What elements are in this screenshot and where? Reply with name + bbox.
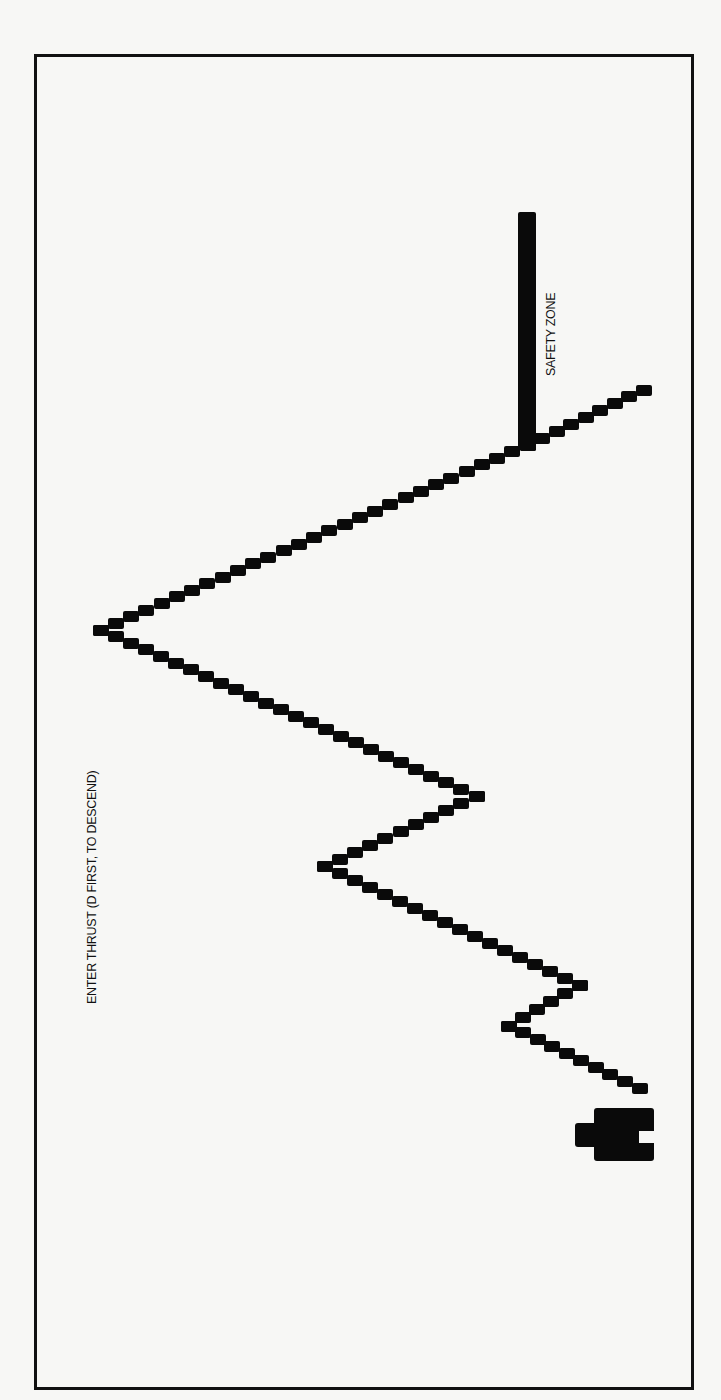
terrain-step: [443, 473, 459, 484]
terrain-step: [337, 519, 353, 530]
terrain-step: [398, 492, 414, 503]
terrain-step: [276, 545, 292, 556]
terrain-step: [459, 466, 475, 477]
terrain-step: [544, 1041, 560, 1052]
lander-notch: [639, 1131, 655, 1143]
terrain-step: [108, 631, 124, 642]
terrain-step: [138, 605, 154, 616]
terrain-step: [154, 598, 170, 609]
terrain-step: [321, 525, 337, 536]
safety-zone-label: SAFETY ZONE: [545, 293, 558, 376]
terrain-step: [592, 405, 608, 416]
terrain-step: [377, 889, 393, 900]
terrain-step: [138, 644, 154, 655]
terrain-step: [123, 611, 139, 622]
terrain-step: [199, 578, 215, 589]
terrain-step: [332, 854, 348, 865]
terrain-step: [352, 512, 368, 523]
terrain-step: [501, 1021, 517, 1032]
terrain-step: [632, 1083, 648, 1094]
terrain-step: [393, 826, 409, 837]
terrain-step: [347, 875, 363, 886]
terrain-step: [530, 1034, 546, 1045]
terrain-step: [617, 1076, 633, 1087]
terrain-step: [184, 585, 200, 596]
terrain-step: [317, 861, 333, 872]
terrain-step: [408, 764, 424, 775]
terrain-step: [347, 847, 363, 858]
terrain-step: [527, 959, 543, 970]
terrain-step: [453, 798, 469, 809]
terrain-step: [469, 791, 485, 802]
terrain-step: [423, 771, 439, 782]
terrain-step: [362, 840, 378, 851]
terrain-step: [348, 737, 364, 748]
terrain-step: [452, 924, 468, 935]
terrain-step: [588, 1062, 604, 1073]
terrain-step: [93, 625, 109, 636]
terrain-step: [438, 777, 454, 788]
terrain-step: [482, 938, 498, 949]
terrain-step: [559, 1048, 575, 1059]
terrain-step: [258, 698, 274, 709]
terrain-step: [303, 717, 319, 728]
terrain-step: [169, 591, 185, 602]
terrain-step: [563, 419, 579, 430]
terrain-step: [213, 678, 229, 689]
terrain-step: [362, 882, 378, 893]
terrain-step: [291, 539, 307, 550]
terrain-step: [428, 479, 444, 490]
lander-ship-icon: [575, 1108, 655, 1162]
terrain-step: [332, 868, 348, 879]
terrain-step: [515, 1027, 531, 1038]
terrain-step: [423, 812, 439, 823]
terrain-step: [542, 966, 558, 977]
thrust-prompt: ENTER THRUST (D FIRST, TO DESCEND): [86, 771, 99, 1004]
terrain-step: [123, 638, 139, 649]
terrain-step: [408, 819, 424, 830]
terrain-step: [602, 1069, 618, 1080]
terrain-step: [407, 903, 423, 914]
terrain-step: [183, 664, 199, 675]
terrain-step: [497, 945, 513, 956]
terrain-step: [453, 784, 469, 795]
terrain-step: [557, 973, 573, 984]
terrain-step: [245, 558, 261, 569]
terrain-step: [437, 917, 453, 928]
terrain-step: [534, 433, 550, 444]
terrain-step: [572, 980, 588, 991]
terrain-step: [243, 691, 259, 702]
playfield: SAFETY ZONE ENTER THRUST (D FIRST, TO DE…: [0, 0, 721, 1400]
terrain-step: [557, 988, 573, 999]
terrain-step: [438, 805, 454, 816]
terrain-step: [108, 618, 124, 629]
terrain-step: [377, 833, 393, 844]
terrain-step: [228, 684, 244, 695]
terrain-step: [422, 910, 438, 921]
terrain-step: [333, 731, 349, 742]
terrain-step: [636, 385, 652, 396]
terrain-step: [168, 658, 184, 669]
terrain-step: [512, 952, 528, 963]
terrain-step: [273, 704, 289, 715]
terrain-step: [363, 744, 379, 755]
terrain-step: [367, 506, 383, 517]
terrain-step: [378, 751, 394, 762]
terrain-step: [306, 532, 322, 543]
terrain-step: [474, 459, 490, 470]
terrain-step: [621, 391, 637, 402]
terrain-step: [467, 931, 483, 942]
terrain-step: [573, 1055, 589, 1066]
terrain-step: [153, 651, 169, 662]
terrain-step: [382, 499, 398, 510]
terrain-step: [393, 757, 409, 768]
terrain-step: [230, 565, 246, 576]
safety-zone-marker: [518, 212, 536, 450]
terrain-step: [392, 896, 408, 907]
terrain-step: [215, 572, 231, 583]
lander-left-pod: [575, 1123, 597, 1147]
terrain-step: [413, 486, 429, 497]
terrain-step: [260, 552, 276, 563]
terrain-step: [489, 453, 505, 464]
terrain-step: [198, 671, 214, 682]
